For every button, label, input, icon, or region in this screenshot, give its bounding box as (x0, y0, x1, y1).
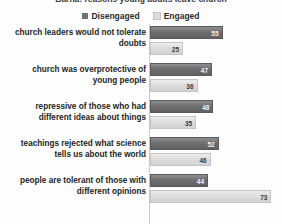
bar-value-disengaged: 52 (207, 139, 214, 150)
category-label: church leaders would not tolerate doubts (14, 28, 146, 49)
bar-engaged: 35 (150, 116, 196, 129)
bar-pair: 47 36 (150, 63, 282, 95)
bar-group: church leaders would not tolerate doubts… (0, 24, 282, 60)
chart-title-cropped: Barna: reasons young adults leave church (0, 0, 282, 5)
bar-row-engaged: 36 (150, 79, 282, 92)
bar-disengaged: 44 (150, 174, 208, 187)
category-label: church was overprotective of young peopl… (14, 65, 146, 86)
bar-row-engaged: 35 (150, 116, 282, 129)
bar-disengaged: 52 (150, 137, 219, 150)
bar-pair: 52 46 (150, 137, 282, 169)
bar-group: church was overprotective of young peopl… (0, 61, 282, 97)
category-label: repressive of those who had different id… (14, 102, 146, 123)
bar-value-disengaged: 55 (211, 28, 218, 39)
bar-group: people are tolerant of those with differ… (0, 172, 282, 212)
bar-row-engaged: 73 (150, 190, 282, 203)
bar-group: teachings rejected what science tells us… (0, 135, 282, 171)
bar-row-disengaged: 52 (150, 137, 282, 150)
category-label: teachings rejected what science tells us… (14, 139, 146, 160)
bar-row-disengaged: 44 (150, 174, 282, 187)
category-label: people are tolerant of those with differ… (14, 176, 146, 197)
bar-engaged: 73 (150, 190, 271, 203)
legend-swatch-engaged (153, 12, 161, 20)
bar-row-engaged: 46 (150, 153, 282, 166)
bar-row-engaged: 25 (150, 42, 282, 55)
chart-legend: Disengaged Engaged (0, 9, 282, 23)
bar-engaged: 46 (150, 153, 211, 166)
legend-label-engaged: Engaged (164, 12, 200, 21)
bar-row-disengaged: 55 (150, 26, 282, 39)
bar-value-engaged: 36 (186, 81, 193, 92)
bar-value-disengaged: 44 (197, 176, 204, 187)
bar-value-engaged: 35 (185, 118, 192, 129)
bar-value-disengaged: 48 (202, 102, 209, 113)
legend-swatch-disengaged (82, 13, 88, 19)
legend-item-disengaged: Disengaged (82, 12, 139, 21)
bar-disengaged: 47 (150, 63, 212, 76)
bar-value-engaged: 25 (172, 44, 179, 55)
legend-label-disengaged: Disengaged (91, 12, 139, 21)
chart-title: Barna: reasons young adults leave church (0, 0, 282, 5)
bar-chart: Barna: reasons young adults leave church… (0, 0, 282, 224)
bar-engaged: 36 (150, 79, 198, 92)
legend-item-engaged: Engaged (153, 12, 200, 21)
bar-value-engaged: 46 (199, 155, 206, 166)
bar-pair: 55 25 (150, 26, 282, 58)
bar-pair: 44 73 (150, 174, 282, 206)
bar-group: repressive of those who had different id… (0, 98, 282, 134)
bar-row-disengaged: 47 (150, 63, 282, 76)
bar-pair: 48 35 (150, 100, 282, 132)
bar-disengaged: 55 (150, 26, 223, 39)
bar-value-disengaged: 47 (201, 65, 208, 76)
bar-disengaged: 48 (150, 100, 213, 113)
bar-row-disengaged: 48 (150, 100, 282, 113)
bar-value-engaged: 73 (260, 192, 267, 203)
bar-engaged: 25 (150, 42, 183, 55)
plot-area: church leaders would not tolerate doubts… (0, 24, 282, 224)
